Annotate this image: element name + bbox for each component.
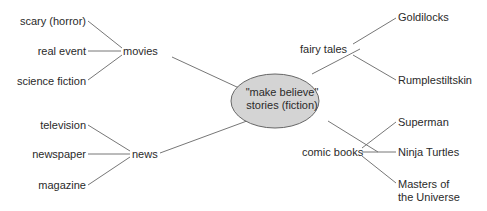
center-line-1: "make believe" [237,86,327,99]
leaf-real-event: real event [0,45,86,58]
leaf-magazine: magazine [0,179,86,192]
leaf-superman: Superman [398,116,449,129]
branch-news: news [132,148,158,161]
leaf-ninja-turtles: Ninja Turtles [398,146,459,159]
leaf-science-fiction: science fiction [0,75,86,88]
leaf-masters-of-the-universe: Masters of the Universe [398,178,460,204]
center-line-2: stories (fiction) [237,99,327,112]
leaf-masters-line-2: the Universe [398,191,460,204]
leaf-masters-line-1: Masters of [398,178,460,191]
leaf-rumplestiltskin: Rumplestiltskin [398,74,472,87]
leaf-scary-horror: scary (horror) [0,15,86,28]
leaf-newspaper: newspaper [0,148,86,161]
branch-fairy-tales: fairy tales [300,43,347,56]
leaf-goldilocks: Goldilocks [398,11,449,24]
leaf-television: television [0,119,86,132]
branch-movies: movies [123,45,158,58]
center-node-label: "make believe" stories (fiction) [237,86,327,112]
branch-comic-books: comic books [302,146,363,159]
